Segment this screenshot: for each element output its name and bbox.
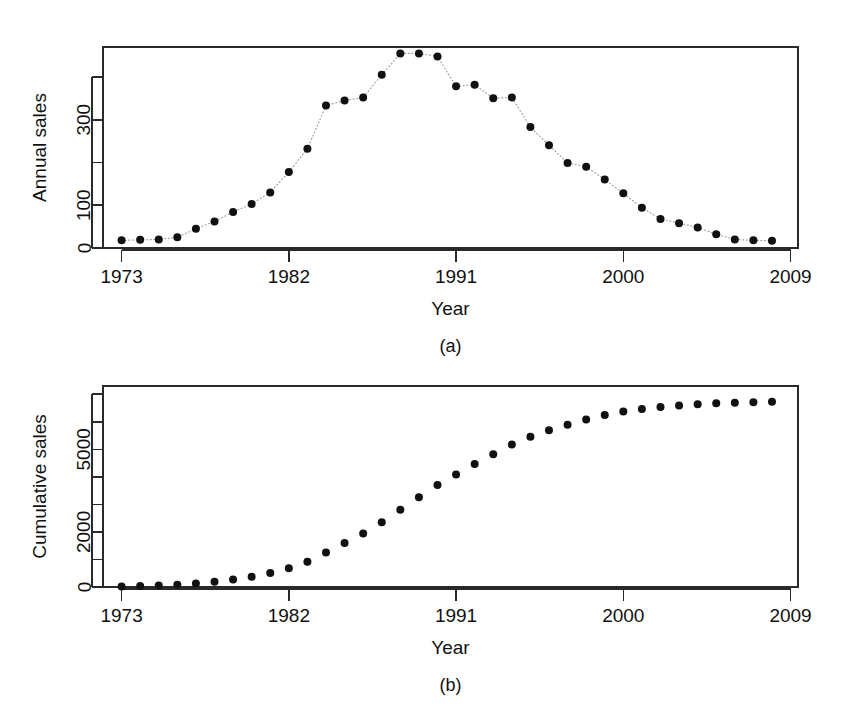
data-point xyxy=(601,411,609,419)
data-point xyxy=(582,163,590,171)
x-tick-label-1982: 1982 xyxy=(268,605,310,626)
data-point xyxy=(712,399,720,407)
data-point xyxy=(471,81,479,89)
data-point xyxy=(768,398,776,406)
data-point xyxy=(248,573,256,581)
data-point xyxy=(359,529,367,537)
data-point xyxy=(378,71,386,79)
data-point xyxy=(656,403,664,411)
data-point xyxy=(452,82,460,90)
data-point xyxy=(303,145,311,153)
data-point xyxy=(136,236,144,244)
data-point xyxy=(433,52,441,60)
data-point xyxy=(601,176,609,184)
data-point xyxy=(545,141,553,149)
data-point xyxy=(749,236,757,244)
data-point xyxy=(266,188,274,196)
x-tick-label-1991: 1991 xyxy=(435,266,477,287)
data-point xyxy=(489,450,497,458)
x-tick-label-1973: 1973 xyxy=(100,605,142,626)
data-point xyxy=(508,93,516,101)
data-point xyxy=(768,237,776,245)
data-point xyxy=(564,421,572,429)
panel-caption: (b) xyxy=(440,675,462,695)
data-point xyxy=(155,581,163,589)
panel-caption: (a) xyxy=(440,336,462,356)
cumulative-sales-chart: 02000500019731982199120002009Cumulative … xyxy=(0,362,854,723)
panel-a: 010030019731982199120002009Annual salesY… xyxy=(0,0,854,362)
data-point xyxy=(471,460,479,468)
x-tick-label-1973: 1973 xyxy=(100,266,142,287)
data-point xyxy=(359,93,367,101)
data-point xyxy=(378,518,386,526)
data-point xyxy=(656,215,664,223)
data-point xyxy=(489,94,497,102)
data-points xyxy=(118,398,776,591)
data-point xyxy=(526,433,534,441)
data-point xyxy=(731,399,739,407)
data-point xyxy=(229,575,237,583)
data-point xyxy=(582,416,590,424)
data-point xyxy=(396,506,404,514)
data-point xyxy=(173,233,181,241)
x-tick-label-2000: 2000 xyxy=(602,266,644,287)
x-tick-label-1982: 1982 xyxy=(268,266,310,287)
data-point xyxy=(675,219,683,227)
data-point xyxy=(638,405,646,413)
data-point xyxy=(192,580,200,588)
x-tick-label-1991: 1991 xyxy=(435,605,477,626)
data-point xyxy=(526,123,534,131)
x-tick-label-2009: 2009 xyxy=(769,266,811,287)
data-point xyxy=(211,217,219,225)
connector-path xyxy=(122,53,772,240)
figure-container: 010030019731982199120002009Annual salesY… xyxy=(0,0,854,723)
y-axis-title: Annual sales xyxy=(29,93,50,202)
x-tick-label-2009: 2009 xyxy=(769,605,811,626)
y-axis-title: Cumulative sales xyxy=(29,414,50,559)
data-point xyxy=(415,493,423,501)
panel-b: 02000500019731982199120002009Cumulative … xyxy=(0,362,854,723)
data-point xyxy=(211,578,219,586)
data-point xyxy=(192,225,200,233)
data-point xyxy=(341,539,349,547)
data-point xyxy=(285,168,293,176)
data-point xyxy=(675,402,683,410)
data-point xyxy=(694,223,702,231)
data-point xyxy=(508,441,516,449)
data-point xyxy=(136,582,144,590)
data-point xyxy=(638,204,646,212)
data-point xyxy=(749,398,757,406)
data-point xyxy=(712,230,720,238)
data-point xyxy=(415,49,423,57)
data-point xyxy=(155,235,163,243)
data-point xyxy=(433,481,441,489)
data-point xyxy=(118,583,126,591)
data-point xyxy=(619,408,627,416)
annual-sales-chart: 010030019731982199120002009Annual salesY… xyxy=(0,0,854,362)
data-point xyxy=(322,549,330,557)
data-point xyxy=(694,400,702,408)
x-tick-label-2000: 2000 xyxy=(602,605,644,626)
data-point xyxy=(545,426,553,434)
data-point xyxy=(619,189,627,197)
data-point xyxy=(248,200,256,208)
x-axis-title: Year xyxy=(431,637,470,658)
data-point xyxy=(396,49,404,57)
plot-box xyxy=(103,386,798,587)
data-point xyxy=(229,208,237,216)
data-points xyxy=(118,49,776,244)
data-point xyxy=(285,564,293,572)
data-point xyxy=(731,235,739,243)
data-point xyxy=(303,558,311,566)
data-point xyxy=(118,236,126,244)
data-point xyxy=(173,581,181,589)
data-point xyxy=(341,96,349,104)
data-point xyxy=(266,569,274,577)
x-axis-title: Year xyxy=(431,298,470,319)
data-point xyxy=(322,102,330,110)
data-point xyxy=(564,159,572,167)
data-point xyxy=(452,470,460,478)
